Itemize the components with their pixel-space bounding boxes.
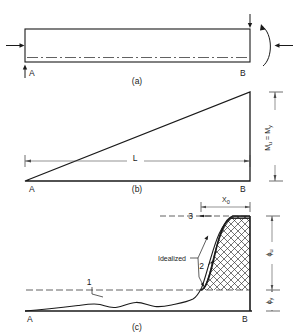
panel-a-node-B-label: B — [240, 68, 246, 78]
panel-b-caption: (b) — [132, 184, 143, 194]
panel-b: L Mu = My A B (b) — [25, 92, 283, 194]
curve-label-1-group: 1 — [87, 277, 103, 297]
moment-dimension-M: Mu = My — [262, 92, 283, 181]
axial-load-left-arrow — [6, 43, 25, 47]
panel-b-node-B-label: B — [240, 184, 246, 194]
panel-b-node-A-label: A — [29, 184, 35, 194]
panel-c-caption: (c) — [132, 322, 142, 332]
span-dimension-L: L — [25, 151, 250, 167]
end-moment-arc-arrow — [260, 24, 270, 66]
span-length-label: L — [133, 153, 138, 163]
engineering-figure: A B (a) L — [0, 0, 299, 334]
reaction-arrow-A — [23, 65, 27, 79]
curve-label-2: 2 — [199, 261, 204, 271]
panel-a-caption: (a) — [132, 76, 143, 86]
shear-load-arrow — [248, 14, 252, 28]
curve-label-3: 3 — [188, 211, 193, 221]
panel-c-node-A-label: A — [27, 314, 33, 324]
curvature-ultimate-dimension: ϕu — [264, 216, 280, 290]
curve-label-1: 1 — [87, 277, 92, 287]
curve-label-3-group: 3 — [188, 211, 212, 221]
panel-a: A B (a) — [6, 14, 293, 86]
idealized-label: Idealized — [158, 255, 186, 262]
panel-c-node-B-label: B — [242, 314, 248, 324]
curvature-yield-dimension: ϕy — [264, 290, 280, 311]
moment-diagram-triangle — [25, 92, 250, 181]
axial-load-right-arrow — [275, 43, 294, 47]
panel-a-node-A-label: A — [29, 68, 35, 78]
beam-body — [25, 29, 250, 62]
plastic-length-dimension-X0: X0 — [201, 193, 250, 212]
panel-c: X0 ϕu — [25, 193, 280, 332]
